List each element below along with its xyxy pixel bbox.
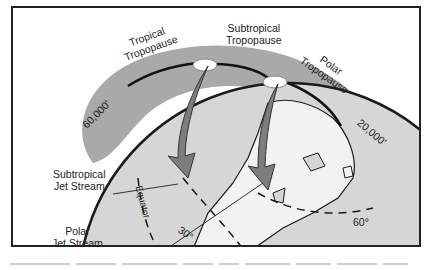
island: [343, 166, 353, 178]
polar-jet-core: [263, 76, 287, 88]
diagram-frame: Tropical Tropopause Subtropical Tropopau…: [11, 6, 421, 247]
polar-jet-stream-label: Polar Jet Stream: [52, 225, 103, 247]
subtropical-jet-stream-label: Subtropical Jet Stream: [53, 168, 106, 192]
latitude-60-label: 60°: [353, 216, 369, 228]
cropped-caption-text: [10, 255, 425, 265]
subtropical-jet-core: [193, 59, 217, 71]
subtropical-tropopause-label: Subtropical Tropopause: [226, 22, 282, 46]
